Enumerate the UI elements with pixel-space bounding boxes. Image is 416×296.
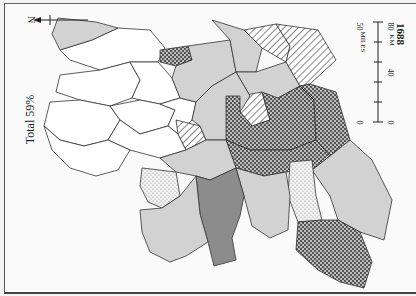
miles-tick-50: 50 xyxy=(355,23,364,31)
region-cross-1 xyxy=(226,86,316,150)
scale-bar xyxy=(373,22,383,122)
km-tick-80: 80 xyxy=(386,23,395,31)
total-label: Total 59% xyxy=(23,90,38,150)
north-label: N xyxy=(26,16,37,23)
region-dark-central xyxy=(196,168,244,266)
miles-tick-0: 0 xyxy=(355,121,364,125)
km-tick-0: 0 xyxy=(386,121,395,125)
miles-label: MILES xyxy=(359,32,367,53)
km-label: KM xyxy=(388,34,396,45)
year-label: 1688 xyxy=(395,23,407,45)
km-tick-40: 40 xyxy=(386,69,395,77)
region-light-cw2 xyxy=(236,168,290,238)
